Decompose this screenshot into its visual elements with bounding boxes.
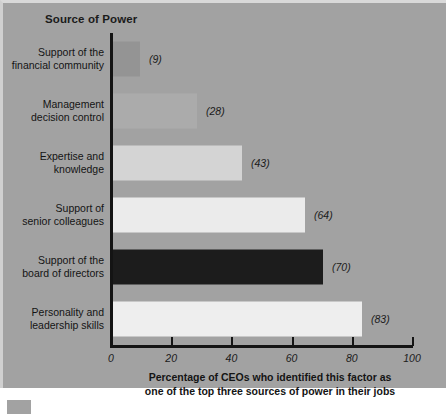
bar-row: Support of thefinancial community(9) (0, 33, 446, 85)
x-axis-line (110, 345, 413, 348)
bar (113, 94, 197, 129)
x-axis-tick (231, 337, 233, 346)
x-axis-tick (171, 337, 173, 346)
bar (113, 42, 140, 77)
plot-area: Source of Power Support of thefinancial … (0, 0, 446, 388)
bar-category-label-line-1: Support of the (0, 254, 104, 267)
bar (113, 302, 362, 337)
bar-value-label: (28) (206, 105, 225, 117)
bar (113, 146, 242, 181)
bar-category-label-line-2: knowledge (0, 163, 104, 176)
bar-value-label: (9) (149, 53, 162, 65)
x-axis-tick (352, 337, 354, 346)
x-axis-tick-label: 60 (286, 352, 298, 364)
x-axis-tick (292, 337, 294, 346)
chart-figure: Source of Power Support of thefinancial … (0, 0, 446, 419)
x-axis-caption-line-2: one of the top three sources of power in… (110, 384, 430, 398)
bar-row: Expertise andknowledge(43) (0, 137, 446, 189)
x-axis-tick (412, 337, 414, 346)
x-axis-tick-label: 80 (346, 352, 358, 364)
y-axis-title: Source of Power (45, 13, 137, 25)
bar-category-label-line-2: leadership skills (0, 319, 104, 332)
x-axis-caption: Percentage of CEOs who identified this f… (110, 370, 430, 398)
x-axis-tick-label: 40 (226, 352, 238, 364)
bar-category-label: Managementdecision control (0, 98, 104, 124)
bar-category-label-line-1: Support of (0, 202, 104, 215)
bar-row: Managementdecision control(28) (0, 85, 446, 137)
bar-row: Support ofsenior colleagues(64) (0, 189, 446, 241)
bar-category-label: Support of theboard of directors (0, 254, 104, 280)
bar-value-label: (70) (332, 261, 351, 273)
bar-category-label: Support ofsenior colleagues (0, 202, 104, 228)
bar-category-label-line-2: financial community (0, 59, 104, 72)
bar-category-label-line-1: Expertise and (0, 150, 104, 163)
footer-marker (7, 400, 31, 414)
bar-row: Personality andleadership skills(83) (0, 293, 446, 345)
x-axis-tick-label: 100 (403, 352, 421, 364)
x-axis-caption-line-1: Percentage of CEOs who identified this f… (110, 370, 430, 384)
x-axis-tick-label: 20 (165, 352, 177, 364)
bar-category-label: Support of thefinancial community (0, 46, 104, 72)
bar-category-label-line-2: board of directors (0, 267, 104, 280)
bar-value-label: (43) (251, 157, 270, 169)
bar-category-label-line-1: Support of the (0, 46, 104, 59)
x-axis-tick-label: 0 (108, 352, 114, 364)
bar-category-label: Personality andleadership skills (0, 306, 104, 332)
bar-category-label-line-2: decision control (0, 111, 104, 124)
bar (113, 250, 323, 285)
bar-category-label-line-1: Personality and (0, 306, 104, 319)
bar-row: Support of theboard of directors(70) (0, 241, 446, 293)
bar (113, 198, 305, 233)
bar-value-label: (83) (371, 313, 390, 325)
x-axis-tick (111, 337, 113, 346)
bar-category-label: Expertise andknowledge (0, 150, 104, 176)
bar-category-label-line-1: Management (0, 98, 104, 111)
bar-category-label-line-2: senior colleagues (0, 215, 104, 228)
bar-value-label: (64) (314, 209, 333, 221)
